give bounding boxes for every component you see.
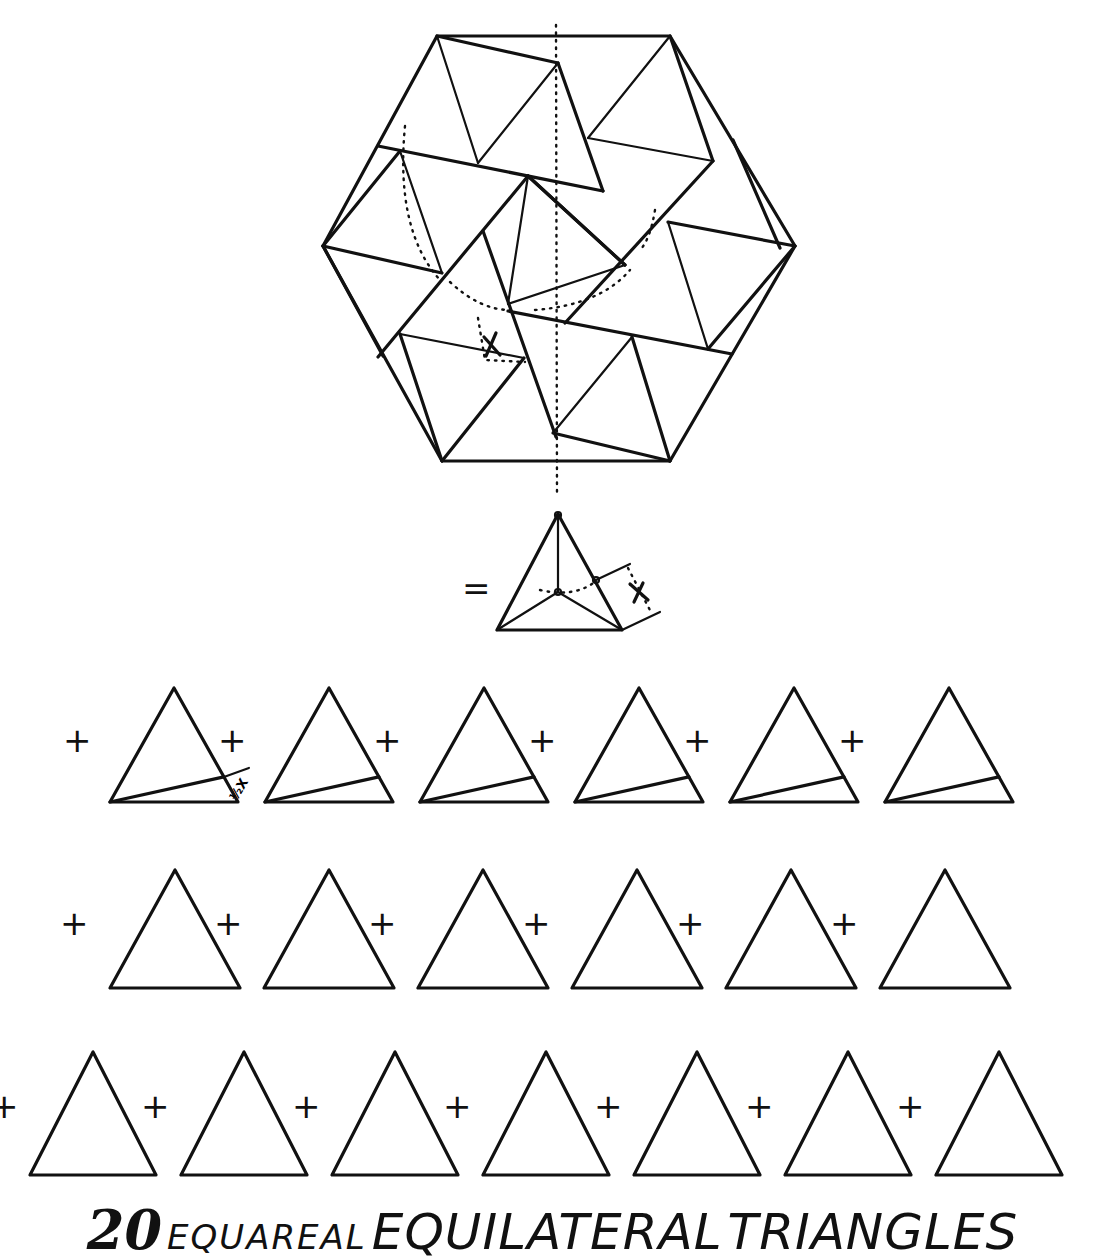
plus-sign: + (830, 903, 859, 943)
cut-line (110, 777, 224, 802)
diagram-title: 20 EQUAREAL EQUILATERAL TRIANGLES (0, 1198, 1105, 1260)
equilateral-triangle (181, 1052, 307, 1175)
title-word-equilateral: EQUILATERAL (372, 1203, 723, 1260)
cut-line (420, 777, 534, 802)
triangle-rows: +½X++++++++++++++++++ (0, 688, 1062, 1175)
hexagon-dotted-arcs (403, 126, 655, 362)
reference-triangle (497, 514, 622, 630)
triangle-3-2: + (141, 1052, 307, 1175)
triangle-1-5: + (683, 688, 858, 802)
title-word-triangles: TRIANGLES (728, 1203, 1019, 1260)
equilateral-triangle (885, 688, 1013, 802)
triangle-1-3: + (373, 688, 548, 802)
plus-sign: + (838, 720, 867, 760)
plus-sign: + (60, 903, 89, 943)
equivalent-triangle-group: = (462, 512, 660, 630)
equilateral-triangle (332, 1052, 458, 1175)
equilateral-triangle (30, 1052, 156, 1175)
plus-sign: + (896, 1086, 925, 1126)
cut-line (885, 777, 999, 802)
plus-sign: + (676, 903, 705, 943)
hexagon-internal-lines (323, 36, 795, 461)
triangle-2-2: + (214, 870, 394, 988)
triangle-1-4: + (528, 688, 703, 802)
plus-sign: + (683, 720, 712, 760)
plus-sign: + (594, 1086, 623, 1126)
plus-sign: + (292, 1086, 321, 1126)
triangle-3-7: + (896, 1052, 1062, 1175)
half-x-dimension-line (224, 768, 249, 777)
plus-sign: + (63, 720, 92, 760)
plus-sign: + (214, 903, 243, 943)
triangle-1-6: + (838, 688, 1013, 802)
cut-line (730, 777, 844, 802)
cut-line (575, 777, 689, 802)
equilateral-triangle (634, 1052, 760, 1175)
triangle-3-3: + (292, 1052, 458, 1175)
triangle-2-6: + (830, 870, 1010, 988)
plus-sign: + (373, 720, 402, 760)
triangle-3-1: + (0, 1052, 156, 1175)
title-number: 20 (87, 1198, 162, 1260)
title-word-equareal: EQUAREAL (167, 1217, 367, 1257)
hexagon-dissection (323, 25, 795, 495)
vertical-axis-dotted (556, 25, 557, 495)
equilateral-triangle (880, 870, 1010, 988)
plus-sign: + (141, 1086, 170, 1126)
triangle-3-5: + (594, 1052, 760, 1175)
equilateral-triangle (483, 1052, 609, 1175)
triangle-3-6: + (745, 1052, 911, 1175)
plus-sign: + (218, 720, 247, 760)
plus-sign: + (522, 903, 551, 943)
plus-sign: + (528, 720, 557, 760)
plus-sign: + (745, 1086, 774, 1126)
plus-sign: + (368, 903, 397, 943)
triangle-3-4: + (443, 1052, 609, 1175)
half-x-label: ½X (226, 776, 251, 804)
equals-sign: = (462, 568, 491, 608)
triangle-2-4: + (522, 870, 702, 988)
triangle-2-3: + (368, 870, 548, 988)
equilateral-triangle (785, 1052, 911, 1175)
hexagon-outline (323, 36, 795, 461)
equilateral-triangle (936, 1052, 1062, 1175)
cut-line (265, 777, 379, 802)
triangle-2-1: + (60, 870, 240, 988)
plus-sign: + (443, 1086, 472, 1126)
plus-sign: + (0, 1086, 19, 1126)
triangle-2-5: + (676, 870, 856, 988)
